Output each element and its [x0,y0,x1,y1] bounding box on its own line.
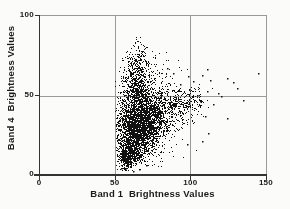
y-tick-label-50: 50 [2,91,34,99]
x-axis-title: Band 1 Brightness Values [39,188,266,199]
y-tick-label-0: 0 [2,170,34,178]
x-tick-label-50: 50 [110,179,120,187]
scatter-plot-figure: Band 1 Brightness Values Band 4 Brightne… [0,0,290,209]
y-axis-title: Band 4 Brightness Values [5,26,16,150]
x-tick-label-0: 0 [37,179,42,187]
x-tick-label-150: 150 [259,179,273,187]
x-tick-label-100: 100 [183,179,197,187]
y-tick-0 [35,174,39,175]
x-axis-line [34,174,267,176]
y-axis-line [39,15,41,179]
y-tick-100 [35,15,39,16]
y-tick-50 [35,95,39,96]
plot-area [39,15,267,175]
scatter-points-canvas [39,16,266,175]
y-tick-label-100: 100 [2,11,34,19]
